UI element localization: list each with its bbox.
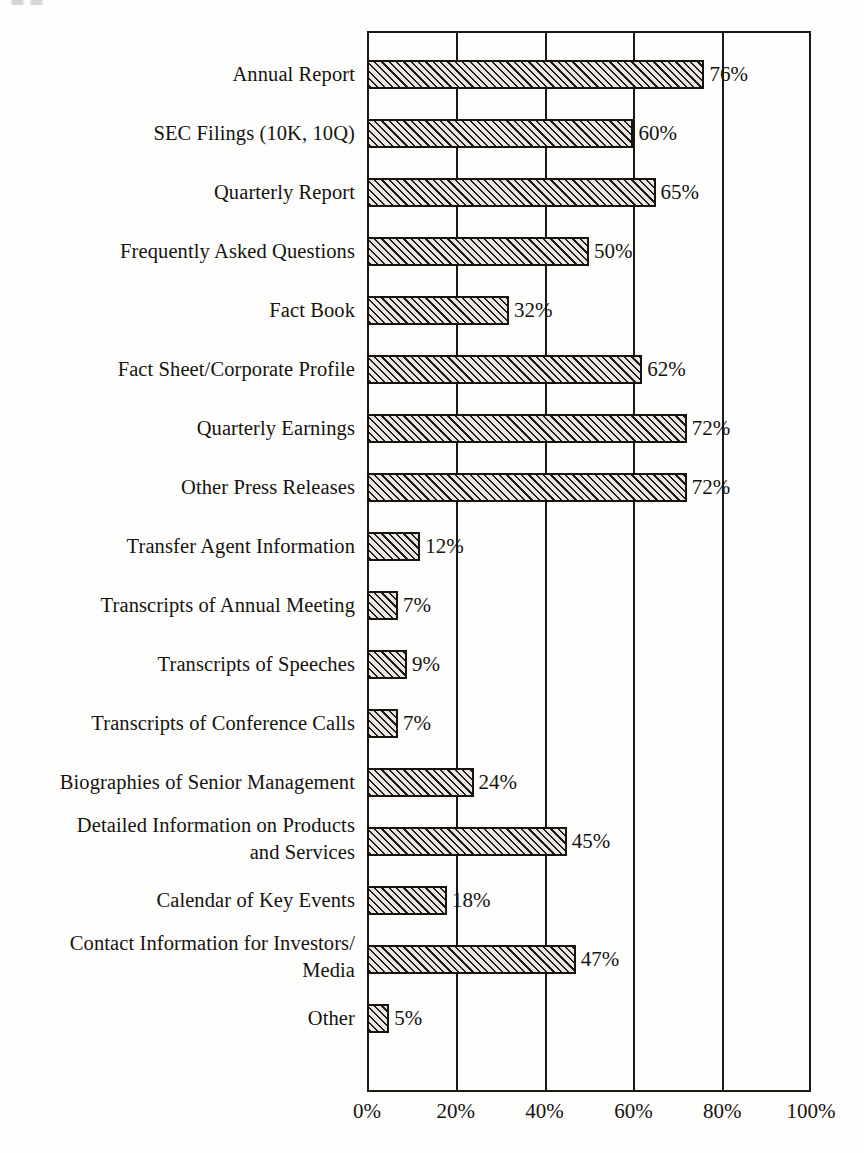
category-label: Fact Book: [0, 297, 367, 323]
category-label: Transcripts of Conference Calls: [0, 710, 367, 736]
category-label: Fact Sheet/Corporate Profile: [0, 356, 367, 382]
bar-value-label: 62%: [642, 355, 686, 384]
bar-value-label: 47%: [576, 945, 620, 974]
bar-value-label: 45%: [567, 827, 611, 856]
category-label: Transfer Agent Information: [0, 533, 367, 559]
bar: [367, 591, 398, 620]
bar-row: Annual Report76%: [0, 45, 864, 104]
bar: [367, 355, 642, 384]
bar-value-label: 65%: [656, 178, 700, 207]
bar-value-label: 9%: [407, 650, 440, 679]
bar-value-label: 60%: [633, 119, 677, 148]
bar-row: Other5%: [0, 989, 864, 1048]
bar-value-label: 24%: [474, 768, 518, 797]
bar-value-label: 12%: [420, 532, 464, 561]
bar-row: Detailed Information on Products and Ser…: [0, 812, 864, 871]
bar: [367, 414, 687, 443]
x-tick-label: 0%: [353, 1096, 381, 1126]
bar-value-label: 72%: [687, 414, 731, 443]
bar: [367, 178, 656, 207]
category-label: Transcripts of Speeches: [0, 651, 367, 677]
bar: [367, 709, 398, 738]
bar-rows: Annual Report76%SEC Filings (10K, 10Q)60…: [0, 0, 864, 1153]
x-tick-label: 60%: [614, 1096, 653, 1126]
bar: [367, 1004, 389, 1033]
bar-value-label: 76%: [704, 60, 748, 89]
bar-value-label: 50%: [589, 237, 633, 266]
category-label: Other Press Releases: [0, 474, 367, 500]
bar-value-label: 7%: [398, 709, 431, 738]
x-tick-label: 80%: [703, 1096, 742, 1126]
bar-row: Contact Information for Investors/ Media…: [0, 930, 864, 989]
x-tick-label: 20%: [437, 1096, 476, 1126]
bar-row: Frequently Asked Questions50%: [0, 222, 864, 281]
category-label: Quarterly Earnings: [0, 415, 367, 441]
bar-value-label: 32%: [509, 296, 553, 325]
bar: [367, 945, 576, 974]
bar-row: Transcripts of Conference Calls7%: [0, 694, 864, 753]
x-tick-label: 100%: [787, 1096, 836, 1126]
bar-chart: Annual Report76%SEC Filings (10K, 10Q)60…: [0, 0, 864, 1153]
category-label: Quarterly Report: [0, 179, 367, 205]
bar: [367, 473, 687, 502]
bar-value-label: 72%: [687, 473, 731, 502]
bar-row: Calendar of Key Events18%: [0, 871, 864, 930]
bar-row: Fact Sheet/Corporate Profile62%: [0, 340, 864, 399]
bar-row: Other Press Releases72%: [0, 458, 864, 517]
bar: [367, 886, 447, 915]
bar-row: Fact Book32%: [0, 281, 864, 340]
bar: [367, 296, 509, 325]
bar: [367, 768, 474, 797]
bar-row: Quarterly Report65%: [0, 163, 864, 222]
category-label: Detailed Information on Products and Ser…: [0, 812, 367, 866]
bar-row: Transcripts of Annual Meeting7%: [0, 576, 864, 635]
bar-row: Transfer Agent Information12%: [0, 517, 864, 576]
bar-row: Biographies of Senior Management24%: [0, 753, 864, 812]
bar-row: Quarterly Earnings72%: [0, 399, 864, 458]
category-label: Biographies of Senior Management: [0, 769, 367, 795]
bar: [367, 60, 704, 89]
category-label: Contact Information for Investors/ Media: [0, 930, 367, 984]
x-tick-label: 40%: [525, 1096, 564, 1126]
category-label: Annual Report: [0, 61, 367, 87]
bar-value-label: 5%: [389, 1004, 422, 1033]
category-label: Frequently Asked Questions: [0, 238, 367, 264]
bar: [367, 237, 589, 266]
category-label: Calendar of Key Events: [0, 887, 367, 913]
bar-row: Transcripts of Speeches9%: [0, 635, 864, 694]
category-label: Transcripts of Annual Meeting: [0, 592, 367, 618]
bar: [367, 650, 407, 679]
bar-row: SEC Filings (10K, 10Q)60%: [0, 104, 864, 163]
category-label: Other: [0, 1005, 367, 1031]
bar: [367, 119, 633, 148]
bar: [367, 532, 420, 561]
x-axis: 0%20%40%60%80%100%: [0, 1096, 864, 1140]
bar: [367, 827, 567, 856]
category-label: SEC Filings (10K, 10Q): [0, 120, 367, 146]
bar-value-label: 7%: [398, 591, 431, 620]
bar-value-label: 18%: [447, 886, 491, 915]
